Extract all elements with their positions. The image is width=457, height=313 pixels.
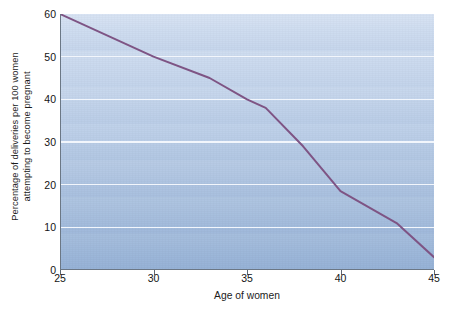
y-tick-label-40: 40 [44,93,56,105]
y-tick-label-60: 60 [44,8,56,20]
chart-figure: Percentage of deliveries per 100 women a… [0,0,457,313]
x-tick-label-40: 40 [335,272,347,284]
y-axis-spine [60,14,61,270]
y-axis-title-text: Percentage of deliveries per 100 women a… [10,52,33,220]
x-tick-label-45: 45 [428,272,440,284]
x-tick-label-30: 30 [148,272,160,284]
plot-area [60,14,434,270]
x-tick-label-35: 35 [241,272,253,284]
series-line-deliveries [60,14,434,257]
y-axis-title-line-2: attempting to become pregnant [21,52,33,220]
y-axis-title-line-1: Percentage of deliveries per 100 women [10,52,20,220]
y-tick-label-10: 10 [44,221,56,233]
x-axis-title: Age of women [60,290,434,301]
x-tick-label-25: 25 [54,272,66,284]
y-tick-label-20: 20 [44,179,56,191]
y-tick-label-30: 30 [44,136,56,148]
y-tick-label-50: 50 [44,51,56,63]
y-axis-tick-labels: 0102030405060 [36,14,56,270]
data-series-layer [60,14,434,270]
